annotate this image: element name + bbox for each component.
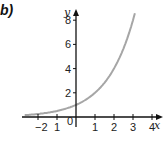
x-tick-label: −2 <box>35 121 48 133</box>
x-tick-label: 4 <box>149 121 155 133</box>
y-tick-label: 4 <box>65 63 71 75</box>
exponential-chart: xy−21012342468 <box>0 0 168 142</box>
x-tick-label: 3 <box>130 121 136 133</box>
y-tick-label: 2 <box>65 87 71 99</box>
curve-line <box>25 13 135 115</box>
y-tick-label: 8 <box>65 14 71 26</box>
x-tick-label: 1 <box>54 121 60 133</box>
curve-layer <box>25 13 135 115</box>
x-tick-label: 2 <box>111 121 117 133</box>
y-axis-arrow-icon <box>73 9 79 16</box>
y-tick-label: 6 <box>65 38 71 50</box>
x-tick-label: 1 <box>92 121 98 133</box>
x-tick-label: 0 <box>67 115 73 127</box>
